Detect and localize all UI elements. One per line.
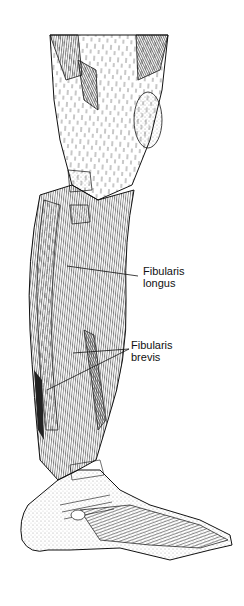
label-fibularis-brevis: Fibularis brevis [131,339,173,363]
label-fibularis-longus: Fibularis longus [143,265,185,289]
label-line-2: longus [143,277,185,289]
lower-leg-shaft [29,185,134,480]
knee-region [50,35,168,200]
label-line-1: Fibularis [131,339,173,351]
label-line-1: Fibularis [143,265,185,277]
ankle-foot [21,460,232,560]
label-line-2: brevis [131,351,173,363]
lower-leg-anatomy-illustration [0,0,244,606]
